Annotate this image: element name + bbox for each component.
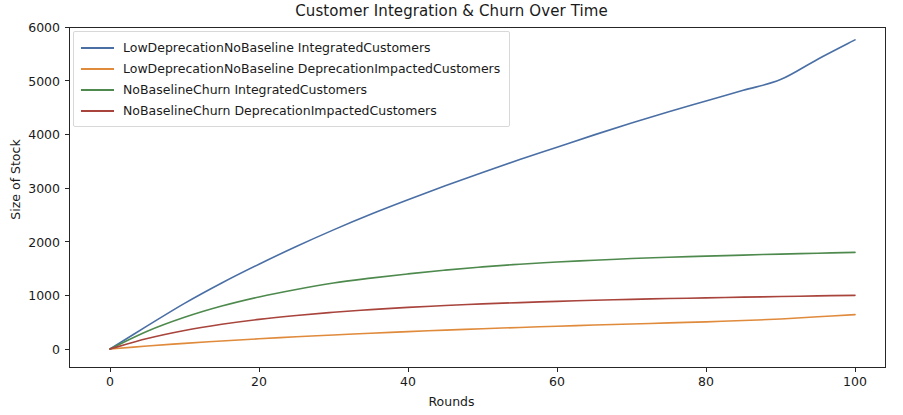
y-tick-label: 0 <box>8 342 60 357</box>
page-title: Customer Integration & Churn Over Time <box>0 2 903 20</box>
x-tick-mark <box>557 368 558 372</box>
x-tick-label: 80 <box>676 374 736 389</box>
series-line <box>110 252 855 349</box>
x-tick-label: 60 <box>527 374 587 389</box>
y-tick-label: 1000 <box>8 288 60 303</box>
y-tick-label: 6000 <box>8 20 60 35</box>
y-tick-label: 2000 <box>8 234 60 249</box>
y-tick-label: 3000 <box>8 181 60 196</box>
y-tick-label: 5000 <box>8 73 60 88</box>
legend-item-label: NoBaselineChurn DeprecationImpactedCusto… <box>123 103 437 118</box>
x-tick-mark <box>259 368 260 372</box>
legend-item-label: NoBaselineChurn IntegratedCustomers <box>123 82 367 97</box>
x-tick-label: 100 <box>825 374 885 389</box>
x-tick-label: 40 <box>378 374 438 389</box>
legend-color-swatch <box>81 47 114 49</box>
x-tick-mark <box>706 368 707 372</box>
x-axis-label: Rounds <box>0 394 903 409</box>
legend-item-label: LowDeprecationNoBaseline IntegratedCusto… <box>123 40 431 55</box>
x-tick-label: 0 <box>80 374 140 389</box>
legend-color-swatch <box>81 89 114 91</box>
legend-color-swatch <box>81 110 114 112</box>
x-tick-mark <box>855 368 856 372</box>
legend-item[interactable]: NoBaselineChurn DeprecationImpactedCusto… <box>81 100 500 121</box>
legend-item[interactable]: LowDeprecationNoBaseline DeprecationImpa… <box>81 58 500 79</box>
y-tick-label: 4000 <box>8 127 60 142</box>
x-tick-mark <box>110 368 111 372</box>
chart-legend: LowDeprecationNoBaseline IntegratedCusto… <box>73 31 510 127</box>
legend-color-swatch <box>81 68 114 70</box>
legend-item[interactable]: NoBaselineChurn IntegratedCustomers <box>81 79 500 100</box>
chart-figure: Customer Integration & Churn Over Time S… <box>0 0 903 415</box>
x-tick-label: 20 <box>229 374 289 389</box>
legend-item[interactable]: LowDeprecationNoBaseline IntegratedCusto… <box>81 37 500 58</box>
y-axis-label: Size of Stock <box>8 132 23 228</box>
x-tick-mark <box>408 368 409 372</box>
series-line <box>110 315 855 349</box>
legend-item-label: LowDeprecationNoBaseline DeprecationImpa… <box>123 61 500 76</box>
